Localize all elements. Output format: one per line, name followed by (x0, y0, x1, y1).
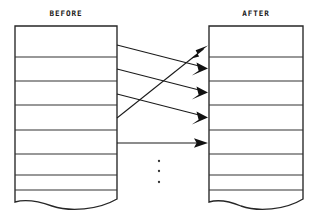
connector-arrow-3-shaft (117, 94, 203, 116)
after-box-outline (209, 26, 303, 209)
diagram-canvas: BEFORE AFTER (0, 0, 320, 217)
connector-arrow-2 (117, 69, 208, 100)
connector-arrow-3 (117, 94, 208, 125)
connector-arrow-2-shaft (117, 69, 203, 91)
before-label: BEFORE (50, 9, 83, 18)
vertical-ellipsis (158, 160, 160, 183)
connector-arrow-1-shaft (117, 45, 203, 67)
connector-arrow-1 (117, 45, 208, 76)
connector-arrows (117, 45, 208, 148)
after-box (209, 26, 303, 209)
before-box (15, 26, 117, 209)
connector-arrow-5 (117, 138, 208, 147)
after-label: AFTER (242, 9, 269, 18)
ellipsis-dot (158, 170, 160, 172)
connector-arrow-4-shaft (117, 49, 204, 118)
before-after-diagram: BEFORE AFTER (0, 0, 320, 217)
before-box-outline (15, 26, 117, 209)
ellipsis-dot (158, 181, 160, 183)
ellipsis-dot (158, 160, 160, 162)
connector-arrow-4-head (191, 46, 208, 59)
